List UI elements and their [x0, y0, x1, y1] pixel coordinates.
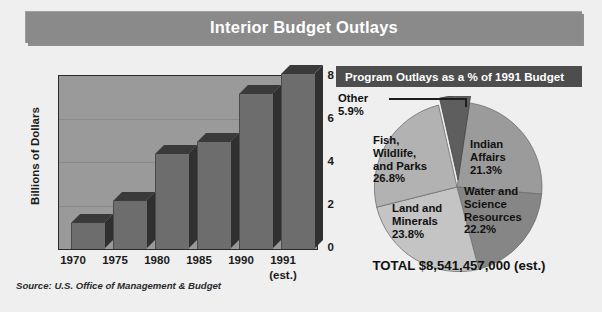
pie-label-water-science-resources: Water and Science Resources 22.2%: [464, 185, 522, 236]
bar-front-1991: [281, 74, 315, 249]
bar-side-1980: [188, 145, 197, 249]
pie-label-land-minerals-l3: 23.8%: [392, 228, 442, 241]
pie-label-other-value: 5.9%: [338, 105, 368, 118]
bar-front-1990: [239, 94, 273, 249]
pie-chart-panel: Program Outlays as a % of 1991 Budget: [336, 62, 590, 300]
bar-side-1990: [272, 85, 281, 249]
title-bar: Interior Budget Outlays: [25, 11, 582, 43]
bar-1975: [113, 201, 146, 249]
pie-label-water-science-l2: Science: [464, 198, 522, 211]
bar-1985: [197, 142, 230, 249]
bar-1990: [239, 94, 272, 249]
pie-label-indian-affairs-l1: Indian: [470, 138, 506, 151]
pie-leader-tick-other: [465, 98, 467, 107]
pie-label-water-science-l1: Water and: [464, 185, 522, 198]
pie-subtitle-text: Program Outlays as a % of 1991 Budget: [345, 70, 564, 83]
pie-label-indian-affairs-l2: Affairs: [470, 151, 506, 164]
bar-side-1975: [146, 192, 155, 249]
x-tick-sublabel-1991: (est.): [260, 269, 306, 281]
y-axis-title: Billions of Dollars: [29, 91, 41, 221]
pie-label-fish-wildlife-and-parks: Fish, Wildlife, and Parks 26.8%: [373, 134, 427, 185]
x-tick-label-1980: 1980: [134, 254, 180, 266]
pie-label-land-minerals-l1: Land and: [392, 202, 442, 215]
pie-label-indian-affairs-l3: 21.3%: [470, 164, 506, 177]
bar-layer: [58, 75, 316, 249]
pie-leader-line-other: [389, 98, 467, 100]
bar-front-1975: [113, 201, 147, 249]
pie-label-fish-wildlife-l2: Wildlife,: [373, 147, 427, 160]
pie-label-indian-affairs: Indian Affairs 21.3%: [470, 138, 506, 176]
bar-front-1970: [71, 223, 105, 249]
bar-1970: [71, 223, 104, 249]
pie-label-fish-wildlife-l1: Fish,: [373, 134, 427, 147]
pie-label-fish-wildlife-l4: 26.8%: [373, 172, 427, 185]
x-tick-label-1990: 1990: [218, 254, 264, 266]
x-tick-label-1991: 1991: [260, 254, 306, 266]
pie-label-other: Other 5.9%: [338, 92, 368, 118]
pie-total-label: TOTAL $8,541,457,000 (est.): [336, 258, 582, 273]
bar-front-1980: [155, 154, 189, 249]
pie-subtitle-bar: Program Outlays as a % of 1991 Budget: [336, 66, 582, 87]
bar-1991: [281, 74, 314, 249]
figure-root: Interior Budget Outlays Billions of Doll…: [0, 0, 602, 312]
x-tick-label-1985: 1985: [176, 254, 222, 266]
bar-front-1985: [197, 142, 231, 249]
page-title: Interior Budget Outlays: [210, 18, 398, 37]
pie-label-land-minerals-l2: Minerals: [392, 215, 442, 228]
pie-label-water-science-l3: Resources: [464, 211, 522, 224]
bar-1980: [155, 154, 188, 249]
pie-label-water-science-l4: 22.2%: [464, 223, 522, 236]
pie-label-other-name: Other: [338, 92, 368, 105]
pie-label-fish-wildlife-l3: and Parks: [373, 160, 427, 173]
bar-side-1991: [314, 65, 323, 249]
pie-label-land-and-minerals: Land and Minerals 23.8%: [392, 202, 442, 240]
bar-side-1985: [230, 133, 239, 249]
x-tick-label-1975: 1975: [92, 254, 138, 266]
bar-chart-panel: Billions of Dollars 8 6 4 2 0: [14, 58, 334, 308]
source-note: Source: U.S. Office of Management & Budg…: [16, 280, 221, 291]
x-tick-label-1970: 1970: [50, 254, 96, 266]
